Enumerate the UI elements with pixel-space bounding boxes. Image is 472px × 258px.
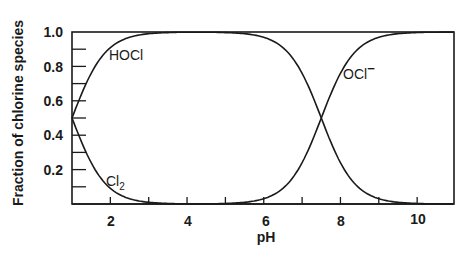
label-cl2: Cl2	[106, 173, 125, 192]
y-tick-0.8: 0.8	[44, 59, 64, 75]
curve-cl2	[72, 118, 454, 204]
label-hocl: HOCl	[109, 47, 143, 63]
chart: Fraction of chlorine species 1.0 0.8 0.6…	[0, 0, 472, 258]
x-tick-10: 10	[410, 211, 426, 227]
label-ocl-base: OCl	[343, 66, 367, 82]
x-tick-4: 4	[184, 213, 192, 229]
label-cl2-base: Cl	[106, 173, 119, 189]
y-tick-0.4: 0.4	[44, 127, 64, 143]
y-axis-title: Fraction of chlorine species	[10, 20, 26, 206]
x-axis-title: pH	[257, 229, 276, 245]
x-tick-6: 6	[262, 213, 270, 229]
y-tick-1.0: 1.0	[44, 24, 64, 40]
label-cl2-subscript: 2	[119, 181, 125, 192]
y-tick-0.2: 0.2	[44, 162, 64, 178]
label-ocl: OCl−	[343, 61, 375, 82]
x-tick-labels: 2 4 6 8 10	[107, 211, 426, 229]
y-tick-labels: 1.0 0.8 0.6 0.4 0.2	[44, 24, 64, 178]
label-ocl-superscript: −	[367, 61, 375, 76]
y-tick-0.6: 0.6	[44, 93, 64, 109]
x-tick-8: 8	[337, 213, 345, 229]
x-tick-2: 2	[107, 213, 115, 229]
